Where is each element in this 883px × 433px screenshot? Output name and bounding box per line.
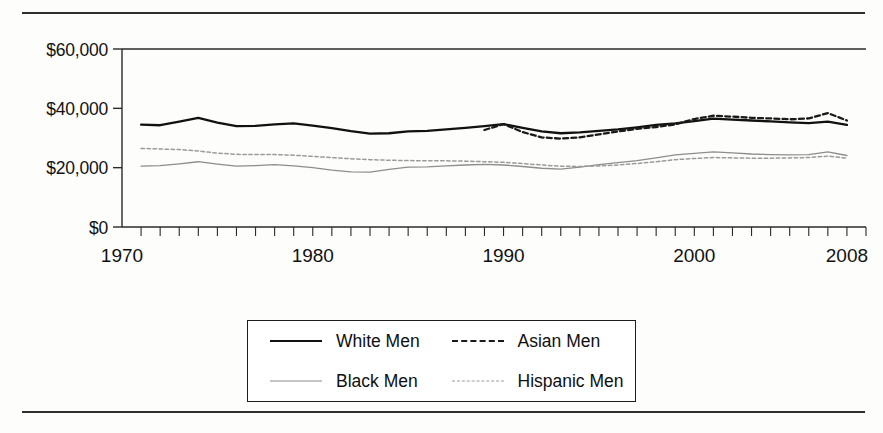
chart-legend: White Men Asian Men Black Men Hispanic M… [247,320,636,402]
legend-label-black-men: Black Men [336,371,418,392]
legend-label-white-men: White Men [336,331,420,352]
x-axis-tick-label: 1980 [292,245,334,266]
legend-item-white-men[interactable]: White Men [248,321,442,361]
series-line-white-men [141,118,847,134]
legend-swatch-black-men [270,374,322,388]
series-line-asian-men [484,113,846,139]
x-axis-tick-label: 1970 [101,245,143,266]
x-axis-tick-label: 2008 [826,245,868,266]
line-chart-figure: $0$20,000$40,000$60,00019701980199020002… [0,20,883,400]
scanned-figure-page: $0$20,000$40,000$60,00019701980199020002… [0,0,883,433]
legend-label-hispanic-men: Hispanic Men [518,371,624,392]
legend-swatch-asian-men [452,334,504,348]
page-rule-bottom [22,411,865,413]
y-axis-tick-label: $0 [89,218,109,238]
x-axis-tick-label: 2000 [673,245,715,266]
legend-swatch-white-men [270,334,322,348]
chart-svg: $0$20,000$40,000$60,00019701980199020002… [0,20,883,285]
x-axis-tick-label: 1990 [482,245,524,266]
page-rule-top [22,12,865,14]
legend-swatch-hispanic-men [452,374,504,388]
y-axis-tick-label: $40,000 [46,99,108,119]
legend-item-black-men[interactable]: Black Men [248,361,442,401]
legend-label-asian-men: Asian Men [518,331,601,352]
y-axis-tick-label: $20,000 [46,158,108,178]
y-axis-tick-label: $60,000 [46,40,108,60]
legend-item-hispanic-men[interactable]: Hispanic Men [442,361,636,401]
series-line-hispanic-men [141,148,847,166]
legend-item-asian-men[interactable]: Asian Men [442,321,636,361]
plot-area: $0$20,000$40,000$60,00019701980199020002… [0,20,883,285]
